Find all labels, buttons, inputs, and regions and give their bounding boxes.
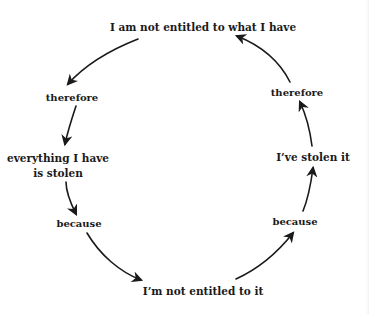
node-left-claim-line1: everything I have: [7, 151, 109, 166]
arrow-because-to-stolen: [303, 168, 313, 211]
arrow-therefore-to-stolen: [65, 106, 76, 144]
arrow-therefore-to-top: [237, 36, 290, 82]
arrow-because-to-bottom: [87, 233, 141, 280]
circular-reasoning-diagram: I am not entitled to what I have therefo…: [0, 0, 369, 314]
arrow-bottom-to-because: [236, 233, 293, 279]
node-bottom: I’m not entitled to it: [143, 284, 264, 299]
node-right-therefore: therefore: [271, 85, 324, 100]
node-left-therefore: therefore: [46, 90, 99, 105]
node-left-claim-line2: is stolen: [33, 166, 83, 181]
arrow-top-to-therefore: [68, 39, 138, 84]
node-right-because: because: [272, 214, 317, 229]
arrow-stolen-to-therefore: [300, 102, 312, 146]
node-left-because: because: [56, 216, 101, 231]
node-right-claim: I’ve stolen it: [276, 150, 350, 165]
arrow-stolen-to-because: [66, 182, 76, 214]
node-top: I am not entitled to what I have: [110, 20, 296, 35]
